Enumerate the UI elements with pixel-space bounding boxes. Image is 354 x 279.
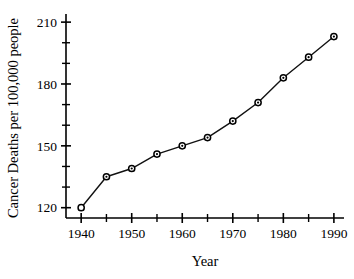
chart-canvas: 120150180210 194019501960197019801990 Ye…: [0, 0, 354, 279]
series-line: [81, 37, 334, 208]
data-point-marker: [78, 205, 84, 211]
data-point-center: [232, 120, 234, 122]
y-tick-label: 210: [37, 15, 58, 30]
x-axis-title: Year: [192, 253, 219, 269]
y-axis: 120150180210: [37, 14, 71, 218]
data-point-center: [131, 167, 133, 169]
x-tick-label: 1980: [270, 226, 297, 241]
data-point-center: [282, 77, 284, 79]
y-axis-title: Cancer Deaths per 100,000 people: [5, 18, 21, 218]
data-point-center: [206, 136, 208, 138]
y-tick-label: 180: [37, 77, 58, 92]
y-axis-tick-labels: 120150180210: [37, 15, 58, 216]
data-point-center: [308, 56, 310, 58]
x-tick-label: 1990: [320, 226, 347, 241]
data-series: [78, 33, 337, 210]
data-point-center: [105, 176, 107, 178]
data-point-center: [181, 145, 183, 147]
x-tick-label: 1950: [118, 226, 145, 241]
cancer-deaths-line-chart: 120150180210 194019501960197019801990 Ye…: [0, 0, 354, 279]
x-tick-label: 1970: [219, 226, 246, 241]
x-tick-label: 1940: [68, 226, 95, 241]
data-point-center: [257, 101, 259, 103]
x-axis-tick-labels: 194019501960197019801990: [68, 226, 348, 241]
y-tick-label: 120: [37, 200, 58, 215]
x-tick-label: 1960: [169, 226, 196, 241]
data-point-center: [156, 153, 158, 155]
y-tick-label: 150: [37, 139, 58, 154]
series-markers: [78, 33, 337, 210]
x-axis: 194019501960197019801990: [66, 213, 348, 241]
data-point-center: [333, 35, 335, 37]
